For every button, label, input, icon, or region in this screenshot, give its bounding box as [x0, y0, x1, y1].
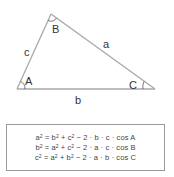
plus-sign: +	[58, 153, 67, 162]
side-a-line	[51, 14, 155, 89]
cos-operator: · cos	[109, 153, 130, 162]
side-c-line	[17, 14, 51, 89]
formula-line-c: c2 = a2 + b2 − 2 · a · b · cos C	[35, 153, 136, 163]
vertex-b-label: B	[52, 23, 59, 35]
cos-operator: · cos	[109, 143, 130, 152]
formula-angle: A	[130, 133, 135, 142]
equals-sign: =	[43, 133, 52, 142]
plus-sign: +	[59, 133, 68, 142]
cos-operator: · cos	[110, 133, 131, 142]
formula-angle: C	[131, 153, 137, 162]
minus-two: − 2 ·	[74, 143, 94, 152]
formula-angle: B	[131, 143, 136, 152]
formula-line-a: a2 = b2 + c2 − 2 · b · c · cos A	[36, 133, 136, 143]
dot-operator: ·	[99, 133, 106, 142]
minus-two: − 2 ·	[74, 153, 94, 162]
angle-c-arc	[143, 82, 144, 90]
dot-operator: ·	[99, 143, 106, 152]
minus-two: − 2 ·	[74, 133, 94, 142]
vertex-c-label: C	[129, 79, 137, 91]
side-a-label: a	[103, 38, 110, 50]
formula-line-b: b2 = a2 + c2 − 2 · a · c · cos B	[35, 143, 135, 153]
side-c-label: c	[24, 46, 30, 58]
law-of-cosines-box: a2 = b2 + c2 − 2 · b · c · cos A b2 = a2…	[6, 124, 165, 171]
equals-sign: =	[42, 153, 51, 162]
side-b-label: b	[75, 94, 81, 106]
vertex-a-label: A	[25, 75, 33, 87]
